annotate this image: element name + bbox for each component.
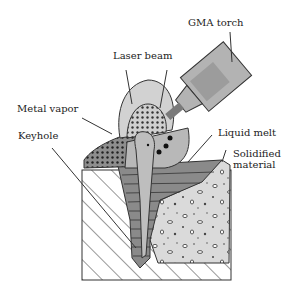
welding-diagram: GMA torch Laser beam Metal vapor Keyhole…: [0, 0, 287, 305]
label-keyhole: Keyhole: [18, 130, 58, 141]
label-solidified-material: Solidified material: [233, 148, 281, 170]
laser-cone: [119, 80, 174, 138]
label-metal-vapor: Metal vapor: [17, 103, 78, 114]
label-laser-beam: Laser beam: [113, 50, 172, 61]
label-gma-torch: GMA torch: [188, 17, 244, 28]
label-liquid-melt: Liquid melt: [218, 127, 276, 138]
